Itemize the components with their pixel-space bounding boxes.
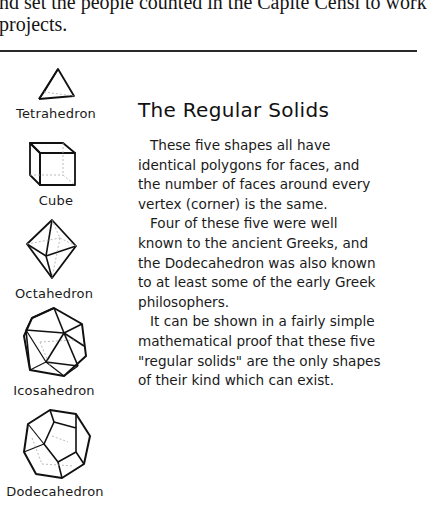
octahedron-icon bbox=[24, 218, 80, 280]
text-line: It can be shown in a fairly simple bbox=[138, 312, 417, 332]
text-line: identical polygons for faces, and bbox=[138, 156, 417, 176]
horizontal-divider bbox=[0, 50, 417, 52]
dodecahedron-label: Dodecahedron bbox=[0, 484, 110, 499]
text-line: Four of these five were well bbox=[138, 214, 417, 234]
dodecahedron-icon bbox=[22, 408, 92, 480]
text-line: nd set the people counted in the Capite … bbox=[0, 0, 427, 13]
text-line: vertex (corner) is the same. bbox=[138, 195, 417, 215]
text-line: mathematical proof that these five bbox=[138, 332, 417, 352]
cube-icon bbox=[27, 140, 79, 188]
text-line: known to the ancient Greeks, and bbox=[138, 234, 417, 254]
icosahedron-icon bbox=[20, 306, 90, 380]
text-line: projects. bbox=[0, 13, 427, 35]
article-title: The Regular Solids bbox=[138, 98, 329, 122]
tetrahedron-label: Tetrahedron bbox=[6, 106, 106, 121]
text-line: the number of faces around every bbox=[138, 175, 417, 195]
article-body: These five shapes all have identical pol… bbox=[138, 136, 417, 391]
text-line: These five shapes all have bbox=[138, 136, 417, 156]
cube-label: Cube bbox=[6, 193, 106, 208]
text-line: "regular solids" are the only shapes bbox=[138, 352, 417, 372]
icosahedron-label: Icosahedron bbox=[2, 383, 106, 398]
text-line: of their kind which can exist. bbox=[138, 371, 417, 391]
text-line: philosophers. bbox=[138, 293, 417, 313]
tetrahedron-icon bbox=[36, 66, 76, 102]
octahedron-label: Octahedron bbox=[2, 286, 106, 301]
text-line: to at least some of the early Greek bbox=[138, 273, 417, 293]
previous-page-text: nd set the people counted in the Capite … bbox=[0, 0, 427, 35]
text-line: the Dodecahedron was also known bbox=[138, 254, 417, 274]
